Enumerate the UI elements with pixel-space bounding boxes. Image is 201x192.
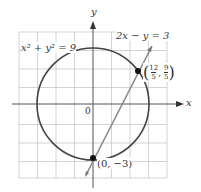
- intersection-point-1: [135, 68, 141, 74]
- point2-label: (0, −3): [97, 158, 132, 169]
- line-equation-label: 2x − y = 3: [116, 30, 170, 41]
- point1-label: ( 12 5 , 9 5 ): [143, 63, 175, 82]
- line-arrow-up-icon: [147, 46, 152, 52]
- x-axis-label: x: [186, 97, 192, 108]
- intersection-point-2: [90, 155, 96, 161]
- origin-label: 0: [85, 106, 91, 116]
- y-axis-label: y: [91, 6, 97, 17]
- x-axis-arrow-icon: [176, 101, 184, 107]
- circle-equation-label: x² + y² = 9: [21, 42, 76, 53]
- y-axis-arrow-icon: [90, 21, 96, 29]
